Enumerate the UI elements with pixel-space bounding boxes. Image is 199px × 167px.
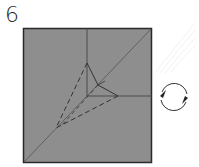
origami-diagram — [0, 0, 199, 167]
turn-over-icon — [160, 83, 188, 110]
